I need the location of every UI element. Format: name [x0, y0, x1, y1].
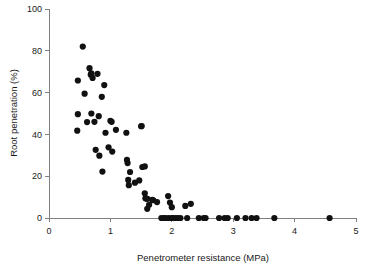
data-point	[136, 177, 142, 183]
data-point	[124, 160, 130, 166]
x-axis-tick-label: 2	[169, 226, 174, 236]
x-axis-title: Penetrometer resistance (MPa)	[137, 252, 269, 263]
data-point	[139, 123, 145, 129]
data-point	[169, 204, 175, 210]
x-axis-tick-label: 1	[108, 226, 113, 236]
data-point	[142, 163, 148, 169]
data-point	[75, 77, 81, 83]
data-point	[82, 91, 88, 97]
data-point	[242, 215, 248, 221]
data-point	[94, 71, 100, 77]
data-point	[123, 130, 129, 136]
data-point	[113, 127, 119, 133]
data-point	[154, 199, 160, 205]
data-point	[202, 215, 208, 221]
y-axis-tick-label: 60	[32, 88, 42, 98]
data-point	[75, 111, 81, 117]
x-axis-tick-label: 3	[231, 226, 236, 236]
data-point	[327, 215, 333, 221]
data-point	[84, 119, 90, 125]
data-point	[182, 203, 188, 209]
data-point	[225, 215, 231, 221]
y-axis-tick-label: 80	[32, 46, 42, 56]
data-point	[89, 75, 95, 81]
data-point	[127, 169, 133, 175]
data-point	[177, 215, 183, 221]
data-point	[102, 130, 108, 136]
y-axis-title: Root penetration (%)	[8, 69, 19, 157]
data-point	[88, 110, 94, 116]
y-axis-tick-label: 100	[27, 4, 42, 14]
tick-labels-group: 020406080100012345	[27, 4, 359, 236]
data-point	[271, 215, 277, 221]
x-axis-tick-label: 5	[353, 226, 358, 236]
data-point	[99, 94, 105, 100]
y-axis-tick-label: 0	[37, 213, 42, 223]
data-point	[165, 193, 171, 199]
plot-svg: 020406080100012345 Penetrometer resistan…	[0, 0, 368, 271]
data-point	[125, 177, 131, 183]
data-point	[216, 215, 222, 221]
data-point	[234, 215, 240, 221]
data-point	[109, 119, 115, 125]
data-point	[96, 153, 102, 159]
data-point	[80, 44, 86, 50]
data-point	[184, 215, 190, 221]
data-point	[93, 147, 99, 153]
x-axis-tick-label: 4	[292, 226, 297, 236]
data-point	[101, 82, 107, 88]
data-point	[109, 148, 115, 154]
data-point	[91, 119, 97, 125]
data-point	[126, 182, 132, 188]
y-axis-tick-label: 20	[32, 171, 42, 181]
data-point	[74, 128, 80, 134]
data-point	[188, 201, 194, 207]
data-points-group	[74, 44, 333, 222]
data-point	[253, 215, 259, 221]
x-axis-tick-label: 0	[46, 226, 51, 236]
axes-group	[49, 9, 356, 218]
y-axis-tick-label: 40	[32, 130, 42, 140]
data-point	[99, 169, 105, 175]
data-point	[96, 113, 102, 119]
scatter-chart-figure: 020406080100012345 Penetrometer resistan…	[0, 0, 368, 271]
